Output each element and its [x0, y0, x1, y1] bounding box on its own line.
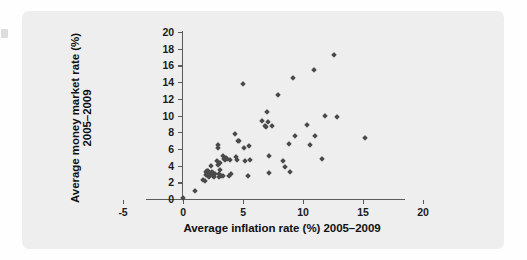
data-point: [282, 164, 288, 170]
data-point: [264, 109, 270, 115]
x-tick-label: 15: [357, 206, 368, 218]
x-tick-mark: [423, 200, 424, 204]
data-point: [227, 157, 233, 163]
data-point: [307, 142, 313, 148]
data-point: [292, 133, 298, 139]
x-tick-mark: [303, 200, 304, 204]
y-axis-title-wrapper: Average money market rate (%) 2005–2009: [0, 0, 195, 200]
data-point: [287, 169, 293, 175]
data-point: [319, 156, 325, 162]
data-point: [263, 124, 269, 130]
data-point: [334, 114, 340, 120]
x-tick-mark: [363, 200, 364, 204]
x-tick-label: 20: [417, 206, 428, 218]
data-point: [362, 135, 368, 141]
data-point: [202, 178, 208, 184]
y-axis-title: Average money market rate (%) 2005–2009: [69, 18, 93, 218]
data-point: [247, 157, 253, 163]
data-point: [331, 52, 337, 58]
data-point: [232, 131, 238, 137]
data-point: [286, 141, 292, 147]
x-axis-title: Average inflation rate (%) 2005–2009: [122, 222, 442, 234]
data-point: [311, 67, 317, 73]
data-point: [312, 133, 318, 139]
figure-container: -505101520 02468101214161820 Average inf…: [0, 0, 527, 260]
data-point: [304, 122, 310, 128]
x-tick-label: -5: [118, 206, 127, 218]
data-point: [245, 173, 251, 179]
x-tick-mark: [123, 200, 124, 204]
x-tick-mark: [243, 200, 244, 204]
x-tick-label: 0: [180, 206, 186, 218]
scatter-plot: -505101520 02468101214161820 Average inf…: [0, 0, 527, 260]
x-tick-label: 10: [297, 206, 308, 218]
x-tick-label: 5: [240, 206, 246, 218]
data-point: [322, 113, 328, 119]
data-point: [269, 123, 275, 129]
data-point: [275, 92, 281, 98]
x-tick-mark: [183, 200, 184, 204]
data-point: [246, 143, 252, 149]
data-point: [266, 170, 272, 176]
data-point: [290, 75, 296, 81]
data-point: [240, 81, 246, 87]
data-point: [266, 153, 272, 159]
data-point: [280, 158, 286, 164]
data-point: [234, 157, 240, 163]
